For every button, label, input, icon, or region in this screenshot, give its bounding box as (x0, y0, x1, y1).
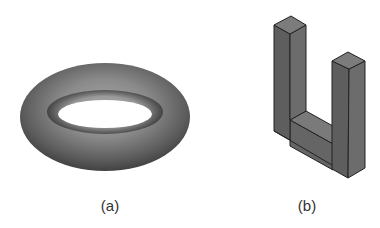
caption-b: (b) (298, 197, 316, 214)
torus-figure (20, 63, 190, 171)
u-block-figure (274, 16, 365, 178)
caption-a: (a) (101, 197, 119, 214)
figure-canvas (0, 0, 380, 228)
